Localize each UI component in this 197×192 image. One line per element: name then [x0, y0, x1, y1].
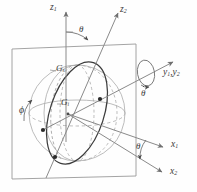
- point-lower-left: [41, 128, 45, 132]
- rotation-spiral-about-y: [135, 59, 156, 88]
- origin-point: [67, 113, 70, 116]
- point-bottom: [53, 155, 57, 159]
- axis-label-y1-y2: y1,y2: [163, 68, 180, 78]
- theta-dot-accent: θ: [141, 89, 145, 98]
- angle-label-theta-top: θ: [79, 25, 83, 34]
- axis-label-z1: z1: [50, 3, 57, 13]
- square-plate-frame: [12, 44, 136, 179]
- axis-x2-line: [68, 114, 162, 172]
- angle-arc-theta-top: [66, 32, 88, 40]
- angle-label-theta-bottom: θ: [136, 142, 140, 151]
- diagram-canvas: [0, 0, 197, 192]
- angle-arc-theta-bottom: [140, 140, 146, 159]
- point-upper-right: [98, 97, 102, 101]
- axis-label-x1: x1: [171, 140, 178, 150]
- figure-root: z1 z2 y1,y2 x1 x2 θ θ θ ϕ Gs Gi: [0, 0, 197, 192]
- angle-arc-phi: [24, 100, 32, 121]
- angle-label-phi: ϕ: [19, 105, 24, 115]
- sphere-wireframe: [29, 65, 125, 161]
- curve-label-Gi: Gi: [61, 98, 69, 108]
- curve-Gi: [35, 54, 119, 171]
- axis-label-x2: x2: [170, 167, 177, 177]
- curve-label-Gs: Gs: [56, 64, 65, 74]
- axis-label-z2: z2: [120, 5, 127, 15]
- angle-label-theta-dot: θ: [141, 89, 145, 98]
